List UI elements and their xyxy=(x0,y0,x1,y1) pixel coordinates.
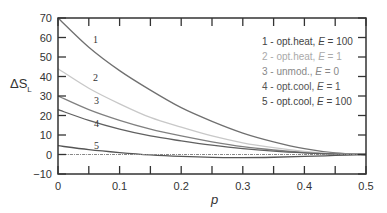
x-tick-label: 0.4 xyxy=(297,180,312,192)
x-axis-title: p xyxy=(210,192,218,207)
curve-label-3: 3 xyxy=(94,95,99,106)
y-tick-labels: −10010203040506070 xyxy=(33,12,52,180)
curve-label-4: 4 xyxy=(94,118,99,129)
curve-label-5: 5 xyxy=(94,140,99,151)
x-tick-label: 0.5 xyxy=(358,180,373,192)
curve-label-2: 2 xyxy=(93,72,98,83)
x-tick-labels: 00.10.20.30.40.5 xyxy=(55,180,374,192)
x-tick-label: 0.2 xyxy=(174,180,189,192)
y-tick-label: 70 xyxy=(40,12,52,24)
y-tick-label: 10 xyxy=(40,129,52,141)
legend-item: 2 - opt.heat, E = 1 xyxy=(262,51,342,62)
line-chart: 00.10.20.30.40.5 −10010203040506070 1234… xyxy=(0,0,387,213)
y-tick-label: 60 xyxy=(40,32,52,44)
legend: 1 - opt.heat, E = 1002 - opt.heat, E = 1… xyxy=(262,36,353,107)
legend-item: 5 - opt.cool, E = 100 xyxy=(262,96,352,107)
y-tick-label: 40 xyxy=(40,71,52,83)
y-tick-label: 20 xyxy=(40,110,52,122)
x-tick-label: 0.3 xyxy=(235,180,250,192)
legend-item: 1 - opt.heat, E = 100 xyxy=(262,36,353,47)
curve-label-1: 1 xyxy=(93,34,98,45)
y-axis-title: ΔSL xyxy=(10,76,32,94)
legend-item: 3 - unmod., E = 0 xyxy=(262,66,339,77)
series-line-4 xyxy=(58,110,366,155)
x-tick-label: 0.1 xyxy=(112,180,127,192)
y-tick-label: 0 xyxy=(46,149,52,161)
y-tick-label: 30 xyxy=(40,90,52,102)
x-tick-label: 0 xyxy=(55,180,61,192)
y-tick-label: −10 xyxy=(33,168,52,180)
y-tick-label: 50 xyxy=(40,51,52,63)
legend-item: 4 - opt.cool, E = 1 xyxy=(262,81,341,92)
